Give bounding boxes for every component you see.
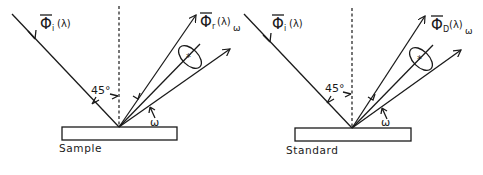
- svg-text:(λ): (λ): [449, 19, 463, 30]
- svg-text:(λ): (λ): [217, 16, 231, 27]
- sample-caption: Sample: [59, 142, 102, 154]
- svg-text:(λ): (λ): [57, 18, 71, 29]
- svg-text:Φ: Φ: [200, 13, 212, 31]
- svg-text:r: r: [212, 22, 216, 31]
- svg-text:Φ: Φ: [272, 15, 284, 33]
- reflected-flux-label: Φ r (λ) ω: [200, 13, 241, 33]
- angle-label: 45°: [325, 82, 345, 95]
- svg-text:ω: ω: [465, 26, 473, 36]
- solid-angle-label: ω: [381, 116, 390, 129]
- sample-panel: * 45° ω Φ i (λ) Φ r (λ) ω Sample: [12, 6, 241, 154]
- reflectance-geometry-diagram: * 45° ω Φ i (λ) Φ r (λ) ω Sample: [0, 0, 483, 175]
- incident-flux-label: Φ i (λ): [40, 15, 71, 33]
- svg-text:(λ): (λ): [289, 18, 303, 29]
- standard-block: [295, 128, 411, 141]
- svg-text:Φ: Φ: [40, 15, 52, 33]
- cone-lower-ray: [352, 50, 461, 128]
- standard-caption: Standard: [286, 144, 339, 156]
- angle-arrow-right-icon: [110, 94, 118, 99]
- reflected-flux-label: Φ D (λ) ω: [431, 16, 473, 36]
- solid-angle-label: ω: [150, 116, 159, 129]
- svg-text:i: i: [52, 24, 54, 33]
- incident-ray: [244, 14, 352, 128]
- cone-upper-ray: [119, 15, 196, 127]
- angle-arrow-left-icon: [327, 96, 334, 103]
- cone-lower-ray: [119, 49, 230, 127]
- sample-block: [62, 127, 177, 140]
- incident-ray: [12, 14, 119, 127]
- svg-text:Φ: Φ: [431, 16, 443, 34]
- incident-flux-label: Φ i (λ): [272, 15, 303, 33]
- standard-panel: * 45° ω Φ i (λ) Φ D (λ) ω Standard: [244, 8, 473, 156]
- cone-center-mark: *: [186, 52, 191, 63]
- svg-text:ω: ω: [233, 23, 241, 33]
- cone-upper-ray: [352, 16, 425, 128]
- angle-label: 45°: [91, 84, 111, 97]
- cone-angle-arrow-icon: [133, 93, 140, 99]
- cone-center-mark: *: [417, 54, 422, 65]
- svg-text:i: i: [284, 24, 286, 33]
